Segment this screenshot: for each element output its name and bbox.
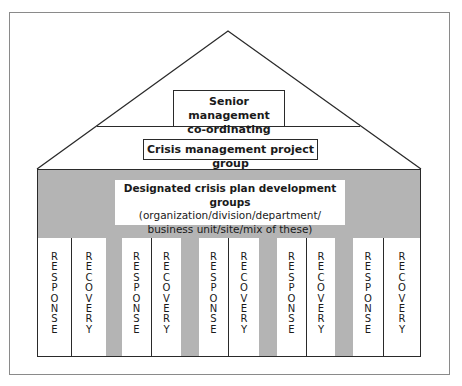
vertical-letter: E	[365, 325, 371, 335]
designated-groups-box: Designated crisis plan development group…	[115, 180, 345, 225]
crisis-management-label: Crisis management project group	[144, 143, 317, 171]
vertical-letter: Y	[399, 325, 405, 335]
recovery-column: RECOVERY	[72, 238, 106, 356]
response-column: RESPONSE	[122, 238, 152, 356]
vertical-letter: E	[210, 325, 216, 335]
designated-groups-subtitle-line2: business unit/site/mix of these)	[115, 223, 345, 237]
pillar-group-3: RESPONSE RECOVERY	[199, 238, 259, 356]
senior-management-label-line1: Senior management	[174, 95, 284, 123]
vertical-letter: Y	[86, 325, 92, 335]
designated-groups-subtitle-line1: (organization/division/department/	[115, 209, 345, 223]
response-column: RESPONSE	[277, 238, 307, 356]
designated-groups-title: Designated crisis plan development group…	[115, 182, 345, 209]
vertical-letter: Y	[241, 325, 247, 335]
senior-management-box: Senior management co-ordinating group	[173, 90, 285, 127]
vertical-letter: Y	[163, 325, 169, 335]
vertical-letter: Y	[318, 325, 324, 335]
vertical-letter: E	[51, 325, 57, 335]
pillar-group-2: RESPONSE RECOVERY	[122, 238, 181, 356]
recovery-column: RECOVERY	[152, 238, 181, 356]
pillar-group-5: RESPONSE RECOVERY	[353, 238, 420, 356]
crisis-management-box: Crisis management project group	[143, 139, 318, 160]
response-column: RESPONSE	[38, 238, 72, 356]
pillar-group-1: RESPONSE RECOVERY	[38, 238, 106, 356]
recovery-column: RECOVERY	[229, 238, 259, 356]
response-column: RESPONSE	[199, 238, 229, 356]
pillar-group-4: RESPONSE RECOVERY	[277, 238, 335, 356]
vertical-letter: E	[288, 325, 294, 335]
recovery-column: RECOVERY	[384, 238, 420, 356]
recovery-column: RECOVERY	[307, 238, 335, 356]
response-column: RESPONSE	[353, 238, 384, 356]
vertical-letter: E	[133, 325, 139, 335]
